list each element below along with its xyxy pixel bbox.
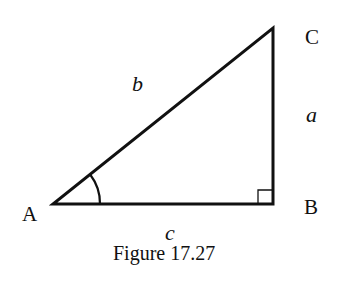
side-label-c: c [165,222,175,244]
vertex-label-a: A [22,204,37,225]
figure-caption: Figure 17.27 [113,243,215,263]
side-label-b: b [132,73,143,95]
vertex-label-b: B [304,197,318,218]
right-angle-mark [258,190,273,204]
side-label-a: a [306,104,317,126]
angle-a-arc [91,175,101,204]
figure: C A B b a c Figure 17.27 [0,0,342,283]
triangle-abc [53,28,273,204]
vertex-label-c: C [305,27,319,48]
